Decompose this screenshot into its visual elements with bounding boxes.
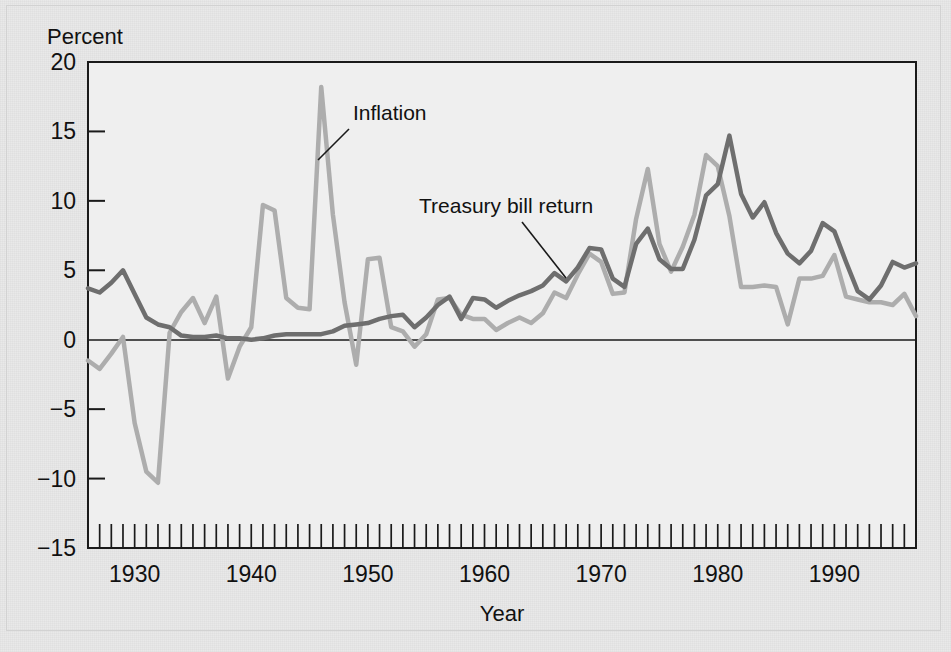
x-tick-label: 1990 xyxy=(809,561,860,587)
x-tick-label: 1930 xyxy=(109,561,160,587)
y-tick-label: −5 xyxy=(50,396,76,422)
figure-page: −15−10−505101520 19301940195019601970198… xyxy=(0,0,951,652)
y-tick-label: 20 xyxy=(50,49,76,75)
annotation-inflation: Inflation xyxy=(353,101,427,124)
x-tick-label: 1950 xyxy=(342,561,393,587)
y-tick-label: −15 xyxy=(37,535,76,561)
x-tick-label: 1940 xyxy=(226,561,277,587)
y-tick-label: 10 xyxy=(50,188,76,214)
y-tick-label: 5 xyxy=(63,257,76,283)
x-tick-label: 1980 xyxy=(692,561,743,587)
x-axis-title: Year xyxy=(480,601,524,626)
y-tick-label: −10 xyxy=(37,466,76,492)
y-axis-title: Percent xyxy=(47,24,123,49)
x-tick-label: 1970 xyxy=(576,561,627,587)
y-tick-label: 15 xyxy=(50,118,76,144)
annotation-treasury-bill-return: Treasury bill return xyxy=(419,194,593,217)
x-axis-tick-labels: 1930194019501960197019801990 xyxy=(109,561,860,587)
inflation-vs-tbill-chart: −15−10−505101520 19301940195019601970198… xyxy=(0,0,951,652)
y-tick-label: 0 xyxy=(63,327,76,353)
x-tick-label: 1960 xyxy=(459,561,510,587)
